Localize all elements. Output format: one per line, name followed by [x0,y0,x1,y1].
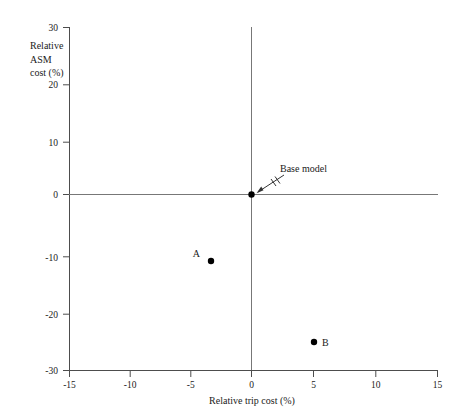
scatter-chart: 30 20 10 0 -10 -20 -30 -15 -10 -5 0 5 10 [0,0,473,408]
xtick-label-0: 0 [249,380,254,390]
data-point-base-model[interactable] [248,191,254,197]
x-axis-tick-labels: -15 -10 -5 0 5 10 15 [63,380,442,390]
ytick-label-0: 0 [53,190,58,200]
y-axis-ticks [63,28,69,371]
annotation-arrow-head [257,187,264,194]
base-model-annotation: Base model [257,163,328,193]
xtick-label-neg15: -15 [63,380,76,390]
xtick-label-5: 5 [311,380,316,390]
data-point-label-b: B [322,337,329,348]
data-point-a[interactable] [208,258,214,264]
xtick-label-neg10: -10 [124,380,137,390]
x-axis-ticks [70,370,438,377]
y-axis-title-line-1: Relative [30,40,64,51]
data-points [208,191,317,345]
xtick-label-15: 15 [433,380,443,390]
chart-svg: 30 20 10 0 -10 -20 -30 -15 -10 -5 0 5 10 [0,0,473,408]
xtick-label-neg5: -5 [187,380,195,390]
ytick-label-neg20: -20 [45,310,58,320]
base-model-annotation-label: Base model [280,163,327,174]
y-axis-title-line-3: cost (%) [30,67,64,79]
data-point-label-a: A [193,248,201,259]
xtick-label-10: 10 [371,380,381,390]
y-axis-title-line-2: ASM [30,54,52,65]
ytick-label-neg10: -10 [45,253,58,263]
ytick-label-neg30: -30 [45,366,58,376]
ytick-label-10: 10 [49,138,59,148]
ytick-label-20: 20 [49,80,59,90]
data-point-b[interactable] [311,339,317,345]
x-axis-title: Relative trip cost (%) [209,395,295,407]
y-axis-title: Relative ASM cost (%) [30,40,64,79]
ytick-label-30: 30 [49,23,59,33]
